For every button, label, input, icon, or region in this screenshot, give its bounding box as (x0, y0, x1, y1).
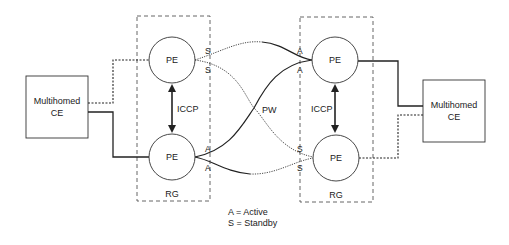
legend-active: A = Active (228, 207, 268, 217)
endpoint-label-left-bottom-lower: A (205, 163, 211, 173)
endpoint-label-right-top-lower: A (297, 65, 303, 75)
pw-redundancy-diagram: Multihomed CE Multihomed CE PW PE PE PE … (0, 0, 509, 245)
endpoint-label-left-bottom-upper: A (205, 144, 211, 154)
pe-right-top-label: PE (329, 55, 341, 65)
attachment-circuit-right-active (358, 61, 423, 106)
pseudowire-label: PW (262, 105, 277, 115)
pseudowire-bottom-standby-half (250, 158, 313, 174)
attachment-circuit-left-standby (88, 60, 149, 103)
attachment-circuit-right-standby (359, 115, 423, 158)
endpoint-label-right-top-upper: A (297, 46, 303, 56)
pe-right-bottom-label: PE (330, 153, 342, 163)
redundancy-group-right-label: RG (329, 190, 343, 200)
redundancy-group-left-label: RG (165, 189, 179, 199)
endpoint-label-right-bottom-upper: S (297, 144, 303, 154)
endpoint-label-right-bottom-lower: S (297, 163, 303, 173)
ce-right-label-line2: CE (448, 112, 461, 122)
attachment-circuit-left-active (88, 112, 149, 157)
pseudowire-top-active-half (262, 42, 312, 60)
pseudowire-cross-active (195, 60, 312, 157)
ce-right-box[interactable] (423, 80, 485, 142)
iccp-label-left: ICCP (177, 104, 199, 114)
pseudowire-bottom-active-half (195, 157, 250, 174)
ce-left-box[interactable] (26, 76, 88, 138)
ce-left-label-line2: CE (51, 108, 64, 118)
ce-left-label-line1: Multihomed (34, 96, 81, 106)
ce-right-label-line1: Multihomed (431, 100, 478, 110)
endpoint-label-left-top-upper: S (205, 46, 211, 56)
legend-standby: S = Standby (228, 218, 278, 228)
endpoint-label-left-top-lower: S (205, 65, 211, 75)
pe-left-bottom-label: PE (166, 152, 178, 162)
iccp-label-right: ICCP (311, 104, 333, 114)
pe-left-top-label: PE (166, 55, 178, 65)
